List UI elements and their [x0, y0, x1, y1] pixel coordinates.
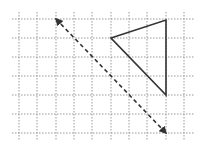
dotted-grid [12, 12, 195, 140]
grid-diagram [0, 0, 202, 147]
